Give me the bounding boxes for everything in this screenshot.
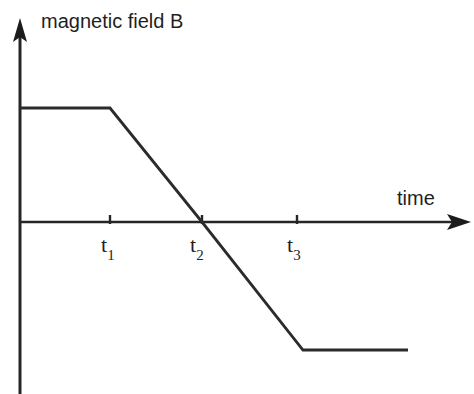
- x-axis-title: time: [397, 188, 435, 208]
- tick-label-t2: t2: [190, 234, 204, 263]
- tick-label-t1: t1: [101, 234, 115, 263]
- tick-label-t2-subscript: 2: [196, 247, 204, 263]
- tick-label-t1-subscript: 1: [107, 247, 115, 263]
- tick-label-t3: t3: [287, 234, 301, 263]
- magnetic-field-curve: [20, 108, 408, 350]
- y-axis-title: magnetic field B: [41, 11, 183, 31]
- physics-graph-figure: magnetic field B time t1 t2 t3: [0, 0, 474, 394]
- tick-label-t3-subscript: 3: [293, 247, 301, 263]
